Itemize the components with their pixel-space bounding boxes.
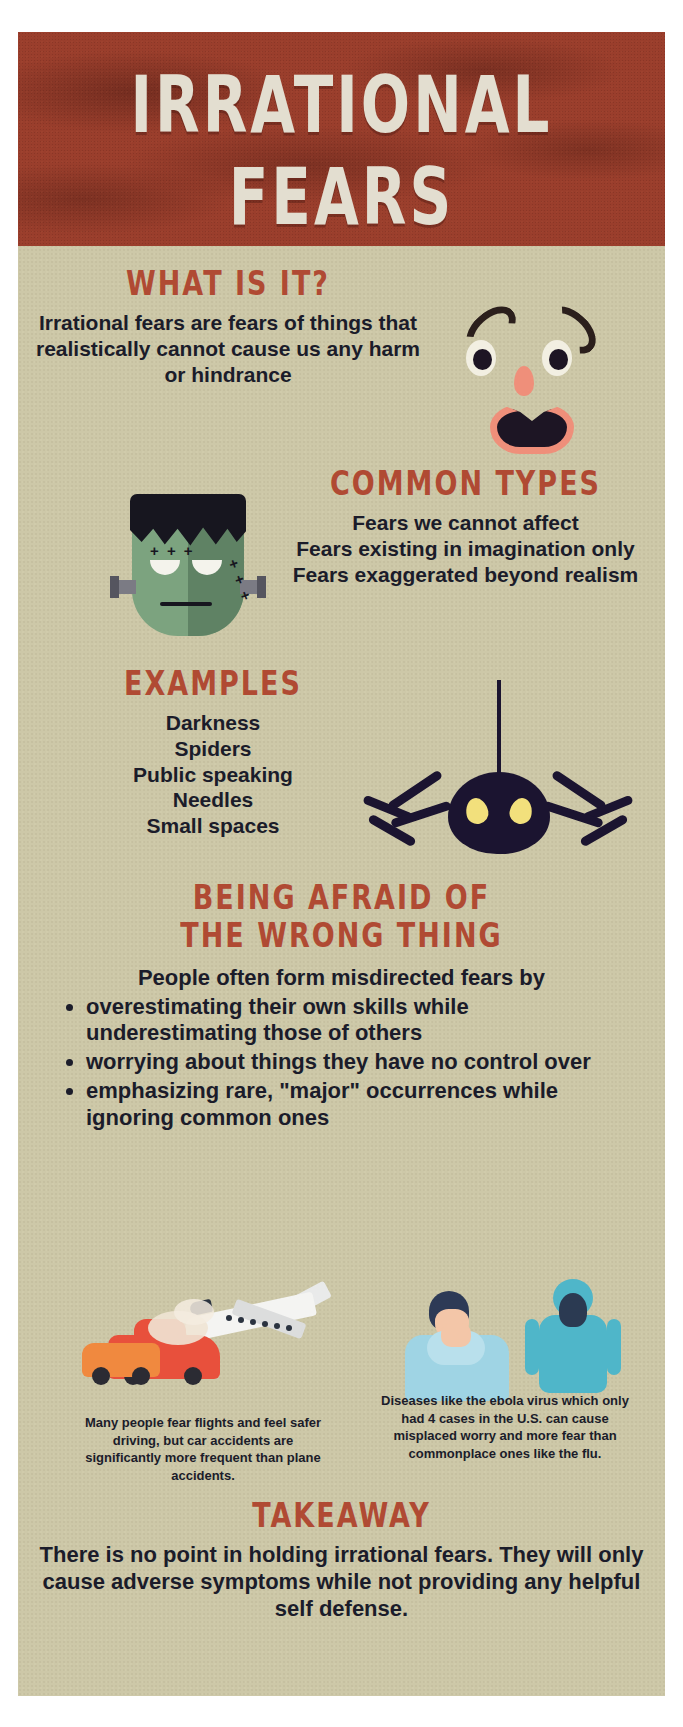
virus-figure-core	[559, 1293, 587, 1327]
spider-web-thread	[497, 680, 501, 776]
frankenstein-mouth	[160, 602, 212, 606]
eye-left	[466, 340, 496, 376]
poster-title: IRRATIONAL FEARS	[18, 66, 665, 216]
wrong-thing-body: People often form misdirected fears by o…	[38, 965, 645, 1132]
eye-right	[542, 340, 572, 376]
spider-icon	[348, 680, 648, 870]
scared-face-icon	[438, 294, 638, 444]
neck-bolt-left	[110, 580, 136, 594]
frankenstein-icon: + + + + + +	[108, 484, 268, 652]
poster-title-line-2: FEARS	[18, 158, 665, 236]
takeaway-heading: TAKEAWAY	[38, 1499, 645, 1534]
car-wheel	[184, 1367, 202, 1385]
airplane-window	[250, 1319, 256, 1325]
caption-plane-vs-car: Many people fear flights and feel safer …	[73, 1414, 333, 1484]
wrong-thing-heading-line-2: THE WRONG THING	[38, 919, 645, 954]
crash-smoke	[174, 1299, 214, 1325]
example-item: Small spaces	[68, 813, 358, 839]
examples-heading: EXAMPLES	[68, 667, 358, 702]
spider-body	[448, 772, 550, 854]
plane-and-car-crash-illustration	[78, 1277, 328, 1407]
pupil-right	[549, 349, 568, 370]
bullet-item: worrying about things they have no contr…	[86, 1049, 631, 1076]
common-type-item: Fears exaggerated beyond realism	[268, 562, 663, 588]
common-type-item: Fears existing in imagination only	[268, 536, 663, 562]
sick-person-and-virus-illustration	[393, 1277, 643, 1407]
airplane-window	[238, 1317, 244, 1323]
virus-figure-icon	[521, 1277, 625, 1405]
section-common-types: COMMON TYPES Fears we cannot affect Fear…	[268, 470, 663, 587]
sick-person-icon	[399, 1287, 519, 1405]
airplane-window	[286, 1325, 292, 1331]
examples-list: Darkness Spiders Public speaking Needles…	[68, 710, 358, 838]
common-types-list: Fears we cannot affect Fears existing in…	[268, 510, 663, 587]
infographic-poster: IRRATIONAL FEARS WHAT IS IT? Irrational …	[0, 0, 683, 1727]
example-item: Public speaking	[68, 762, 358, 788]
nose-icon	[514, 366, 534, 396]
person-hand	[441, 1323, 471, 1347]
poster-page: IRRATIONAL FEARS WHAT IS IT? Irrational …	[18, 32, 665, 1696]
car-wheel	[132, 1367, 150, 1385]
airplane-window	[274, 1323, 280, 1329]
airplane-window	[226, 1315, 232, 1321]
forehead-stitches: + + +	[150, 542, 195, 559]
what-is-it-body: Irrational fears are fears of things tha…	[28, 310, 428, 387]
open-mouth-icon	[490, 404, 574, 454]
section-wrong-thing: BEING AFRAID OF THE WRONG THING People o…	[38, 884, 645, 1132]
caption-ebola-vs-flu: Diseases like the ebola virus which only…	[370, 1392, 640, 1462]
example-item: Needles	[68, 787, 358, 813]
wrong-thing-bullet-list: overestimating their own skills while un…	[52, 994, 631, 1132]
section-takeaway: TAKEAWAY There is no point in holding ir…	[38, 1502, 645, 1623]
what-is-it-heading: WHAT IS IT?	[28, 267, 428, 302]
section-examples: EXAMPLES Darkness Spiders Public speakin…	[68, 670, 358, 838]
takeaway-body: There is no point in holding irrational …	[38, 1542, 645, 1622]
car-wheel	[92, 1367, 110, 1385]
airplane-window	[262, 1321, 268, 1327]
common-types-heading: COMMON TYPES	[268, 467, 663, 502]
section-what-is-it: WHAT IS IT? Irrational fears are fears o…	[28, 270, 428, 387]
wrong-thing-intro: People often form misdirected fears by	[52, 965, 631, 992]
wrong-thing-heading-line-1: BEING AFRAID OF	[38, 881, 645, 916]
bullet-item: overestimating their own skills while un…	[86, 994, 631, 1048]
poster-header-banner: IRRATIONAL FEARS	[18, 32, 665, 246]
common-type-item: Fears we cannot affect	[268, 510, 663, 536]
example-item: Spiders	[68, 736, 358, 762]
poster-title-line-1: IRRATIONAL	[18, 66, 665, 144]
example-item: Darkness	[68, 710, 358, 736]
pupil-left	[473, 349, 492, 370]
virus-figure-arm-left	[525, 1319, 539, 1375]
virus-figure-arm-right	[607, 1319, 621, 1375]
bullet-item: emphasizing rare, "major" occurrences wh…	[86, 1078, 631, 1132]
orange-car-icon	[82, 1343, 160, 1377]
